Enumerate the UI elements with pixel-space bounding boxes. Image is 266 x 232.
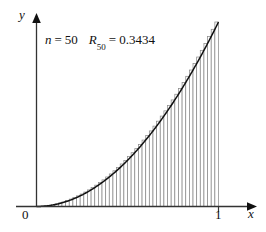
annotation-text: n=50R50=0.3434: [45, 33, 155, 50]
riemann-rectangle: [186, 76, 190, 206]
riemann-rectangle: [200, 50, 204, 206]
annotation-r-subscript: 50: [97, 42, 106, 52]
x-tick-label-one: 1: [215, 208, 222, 221]
riemann-rectangle: [95, 185, 99, 206]
riemann-rectangle: [164, 111, 168, 207]
y-axis-label: y: [19, 8, 25, 21]
annotation-n-value: 50: [65, 32, 78, 47]
riemann-rectangle: [197, 57, 201, 206]
annotation-n-symbol: n: [45, 32, 52, 47]
riemann-rectangle: [178, 88, 182, 206]
annotation-equals-2: =: [106, 32, 119, 47]
riemann-rectangle: [157, 121, 161, 206]
riemann-rectangle: [117, 167, 121, 206]
riemann-sum-figure: n=50R50=0.3434 y x 0 1: [0, 0, 266, 232]
y-axis-arrowhead: [32, 13, 41, 23]
riemann-rectangle: [109, 174, 113, 207]
riemann-rectangle: [160, 116, 164, 206]
riemann-rectangle: [153, 126, 157, 206]
riemann-rectangle: [189, 70, 193, 206]
riemann-rectangle: [175, 94, 179, 206]
riemann-rectangle: [128, 157, 132, 207]
riemann-rectangle: [98, 183, 102, 207]
annotation-r-value: 0.3434: [119, 32, 155, 47]
riemann-rectangle: [113, 171, 117, 207]
riemann-rectangle: [182, 82, 186, 206]
origin-tick-label: 0: [22, 208, 29, 221]
riemann-rectangle: [138, 144, 142, 206]
riemann-rectangle: [168, 105, 172, 206]
annotation-r-symbol: R: [89, 32, 97, 47]
riemann-rectangle: [146, 136, 150, 207]
riemann-rectangle: [204, 43, 208, 206]
riemann-rectangle: [135, 149, 139, 207]
x-axis-label: x: [248, 207, 254, 220]
riemann-rectangle: [106, 177, 110, 207]
riemann-rectangle: [131, 153, 135, 207]
riemann-rectangle: [120, 164, 124, 207]
riemann-rectangle: [208, 36, 212, 206]
annotation-equals-1: =: [52, 32, 65, 47]
riemann-rectangle: [149, 131, 153, 207]
riemann-rectangle: [142, 140, 146, 206]
riemann-rectangle: [215, 22, 219, 207]
riemann-rectangle: [124, 160, 128, 206]
riemann-rectangle: [193, 64, 197, 207]
riemann-rectangles: [40, 22, 218, 207]
riemann-rectangle: [171, 100, 175, 207]
riemann-rectangle: [211, 29, 215, 206]
riemann-rectangle: [102, 180, 106, 207]
